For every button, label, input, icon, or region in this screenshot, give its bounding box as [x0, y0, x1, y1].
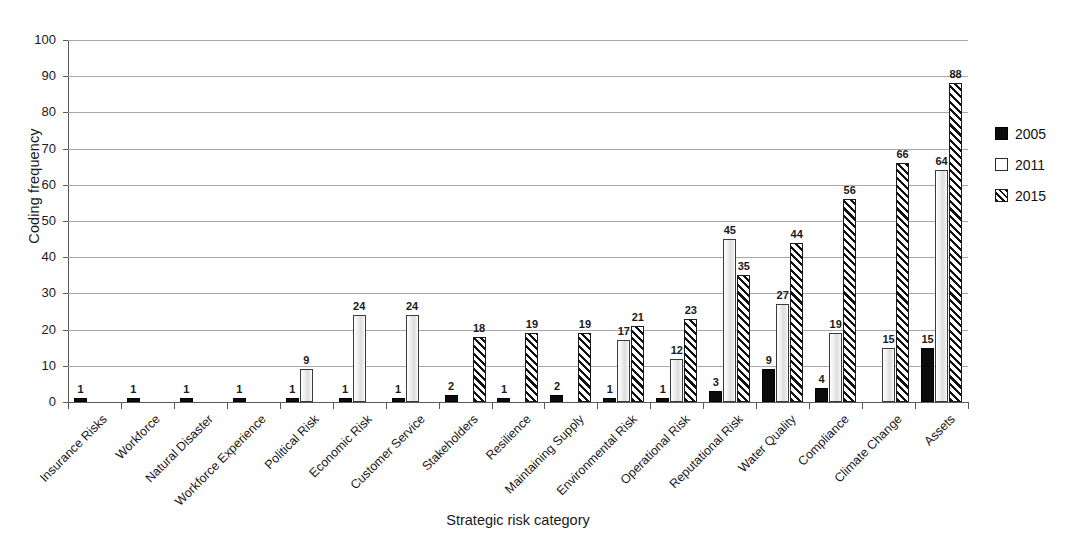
bar-value-label: 21	[632, 312, 644, 323]
bar-slot: 19	[525, 40, 538, 402]
bar-slot: 19	[578, 40, 591, 402]
legend-swatch-icon	[995, 158, 1008, 171]
bar-slot: 1	[180, 40, 193, 402]
x-category-label-text: Workforce Experience	[172, 412, 269, 509]
bar-slot: 17	[617, 40, 630, 402]
bar-slot	[194, 40, 207, 402]
bar-group: 119	[492, 40, 545, 402]
bar-slot	[155, 40, 168, 402]
bar-value-label: 44	[791, 229, 803, 240]
y-tick-label: 80	[8, 104, 56, 119]
bar-value-label: 19	[526, 319, 538, 330]
y-tick-label: 60	[8, 177, 56, 192]
bar-group: 1	[227, 40, 280, 402]
x-category-label-text: Insurance Risks	[38, 412, 111, 485]
legend-item-label: 2015	[1015, 188, 1046, 204]
bar-slot: 24	[353, 40, 366, 402]
x-category-label-text: Stakeholders	[419, 412, 480, 473]
bar-slot	[88, 40, 101, 402]
y-tick-label: 100	[8, 32, 56, 47]
bar-value-label: 19	[579, 319, 591, 330]
bar-value-label: 19	[830, 319, 842, 330]
bar-slot: 2	[550, 40, 563, 402]
bar-value-label: 23	[685, 305, 697, 316]
x-category-label-text: Assets	[921, 412, 957, 448]
bar-value-label: 17	[618, 326, 630, 337]
bar-value-label: 66	[896, 149, 908, 160]
y-tick-label: 70	[8, 141, 56, 156]
legend-swatch-icon	[995, 127, 1008, 140]
bar-2005[interactable]: 1	[74, 398, 87, 402]
bar-value-label: 1	[77, 384, 83, 395]
bar-group: 1	[121, 40, 174, 402]
bar-slot: 1	[497, 40, 510, 402]
bar-slot	[247, 40, 260, 402]
bar-slot: 45	[723, 40, 736, 402]
y-tick-label: 0	[8, 394, 56, 409]
legend-item-2015[interactable]: 2015	[995, 180, 1081, 211]
bar-slot: 19	[829, 40, 842, 402]
legend-item-2011[interactable]: 2011	[995, 149, 1081, 180]
bar-value-label: 45	[724, 225, 736, 236]
bar-slot: 1	[392, 40, 405, 402]
bar-slot: 56	[843, 40, 856, 402]
bar-slot	[141, 40, 154, 402]
bar-group: 1	[68, 40, 121, 402]
bar-slot	[459, 40, 472, 402]
x-category-label-text: Compliance	[795, 412, 852, 469]
bar-value-label: 35	[738, 261, 750, 272]
legend-item-2005[interactable]: 2005	[995, 118, 1081, 149]
y-tick-label: 90	[8, 68, 56, 83]
bar-value-label: 88	[949, 69, 961, 80]
bar-slot	[261, 40, 274, 402]
bar-slot: 27	[776, 40, 789, 402]
bar-slot: 24	[406, 40, 419, 402]
bar-slot: 2	[445, 40, 458, 402]
bar-slot: 1	[603, 40, 616, 402]
bar-slot	[511, 40, 524, 402]
legend-item-label: 2005	[1015, 126, 1046, 142]
bar-slot: 15	[921, 40, 934, 402]
bar-slot: 1	[74, 40, 87, 402]
bar-slot: 1	[127, 40, 140, 402]
bar-slot: 66	[896, 40, 909, 402]
x-tick-mark	[68, 402, 69, 409]
y-tick-label: 50	[8, 213, 56, 228]
bar-slot: 1	[233, 40, 246, 402]
bar-slot: 15	[882, 40, 895, 402]
bar-slot	[420, 40, 433, 402]
bar-slot: 9	[300, 40, 313, 402]
bar-2015[interactable]: 66	[896, 163, 909, 402]
bar-slot: 64	[935, 40, 948, 402]
bar-2015[interactable]: 44	[790, 243, 803, 402]
y-tick-label: 40	[8, 249, 56, 264]
bar-value-label: 56	[844, 185, 856, 196]
bar-slot: 12	[670, 40, 683, 402]
x-axis-title: Strategic risk category	[68, 512, 968, 528]
bar-group: 156488	[915, 40, 968, 402]
bar-value-label: 24	[406, 301, 418, 312]
y-tick-label: 10	[8, 358, 56, 373]
bar-slot: 1	[286, 40, 299, 402]
gridline	[68, 402, 968, 403]
bar-value-label: 27	[777, 290, 789, 301]
bar-slot	[868, 40, 881, 402]
bar-value-label: 9	[766, 355, 772, 366]
bar-group: 124	[386, 40, 439, 402]
legend-item-label: 2011	[1015, 157, 1045, 173]
legend-swatch-icon	[995, 189, 1008, 202]
bar-slot	[367, 40, 380, 402]
bar-slot: 88	[949, 40, 962, 402]
plot-area: 0102030405060708090100111119124124218119…	[68, 40, 968, 402]
y-tick-label: 20	[8, 322, 56, 337]
chart-legend: 200520112015	[995, 118, 1081, 211]
x-category-label-text: Workforce	[113, 412, 163, 462]
bar-2015[interactable]: 19	[578, 333, 591, 402]
bar-value-label: 24	[353, 301, 365, 312]
bar-value-label: 15	[882, 334, 894, 345]
bar-value-label: 64	[935, 156, 947, 167]
bar-2015[interactable]: 35	[737, 275, 750, 402]
bar-value-label: 12	[671, 345, 683, 356]
bar-slot	[208, 40, 221, 402]
bar-group: 1566	[862, 40, 915, 402]
